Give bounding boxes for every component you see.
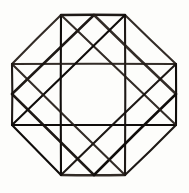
canvas-background	[0, 0, 189, 193]
octagon-star-drawing	[0, 0, 189, 193]
geometric-figure-canvas	[0, 0, 189, 193]
